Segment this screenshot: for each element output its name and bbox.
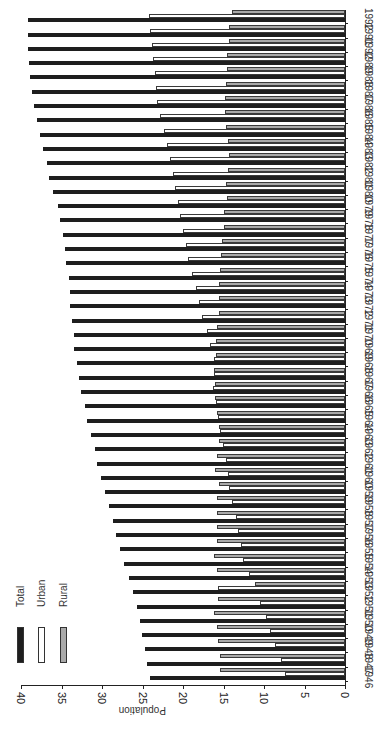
value-axis-label: Population xyxy=(119,705,166,716)
value-tick xyxy=(345,685,346,689)
bar-total xyxy=(53,190,345,194)
bar-total xyxy=(34,104,345,108)
bar-total xyxy=(70,304,345,308)
bar-total xyxy=(37,118,345,122)
bar-total xyxy=(28,33,345,37)
value-tick-label: 10 xyxy=(258,692,270,704)
value-tick xyxy=(264,685,265,689)
bar-total xyxy=(66,261,345,265)
bar-total xyxy=(63,233,345,237)
value-tick xyxy=(21,685,22,689)
legend-label-urban: Urban xyxy=(36,580,47,607)
bar-total xyxy=(109,504,345,508)
legend-label-rural: Rural xyxy=(58,583,69,607)
bar-total xyxy=(137,605,345,609)
bar-total xyxy=(145,647,345,651)
bar-total xyxy=(69,276,345,280)
bar-total xyxy=(49,176,345,180)
value-tick xyxy=(305,685,306,689)
bar-total xyxy=(70,290,345,294)
value-axis-line xyxy=(22,685,346,686)
legend-swatch-total xyxy=(17,627,24,663)
bar-total xyxy=(28,18,345,22)
bar-total xyxy=(113,519,345,523)
value-tick-label: 5 xyxy=(299,692,311,698)
bar-total xyxy=(140,619,345,623)
value-tick-label: 0 xyxy=(339,692,351,698)
bar-total xyxy=(116,533,345,537)
bar-total xyxy=(95,447,345,451)
bar-total xyxy=(147,662,345,666)
bar-total xyxy=(142,633,345,637)
value-tick xyxy=(102,685,103,689)
bar-total xyxy=(105,490,345,494)
value-tick-label: 40 xyxy=(15,692,27,704)
bar-total xyxy=(72,319,345,323)
bar-total xyxy=(101,476,345,480)
legend-swatch-urban xyxy=(38,627,45,663)
value-tick xyxy=(183,685,184,689)
value-tick-label: 25 xyxy=(137,692,149,704)
bar-total xyxy=(97,462,345,466)
value-tick-label: 15 xyxy=(218,692,230,704)
bar-total xyxy=(28,47,345,51)
bar-total xyxy=(133,590,345,594)
value-tick xyxy=(224,685,225,689)
year-label: 1992 xyxy=(363,8,374,30)
bar-total xyxy=(87,419,345,423)
bar-total xyxy=(47,161,345,165)
bar-total xyxy=(81,390,345,394)
bar-total xyxy=(58,204,345,208)
bar-total xyxy=(30,75,345,79)
bar-total xyxy=(32,90,345,94)
bar-total xyxy=(77,361,345,365)
bar-total xyxy=(150,676,345,680)
bar-total xyxy=(120,547,345,551)
bar-total xyxy=(129,576,345,580)
bar-total xyxy=(43,147,345,151)
bar-total xyxy=(29,61,345,65)
legend-label-total: Total xyxy=(15,586,26,607)
legend-swatch-rural xyxy=(60,627,67,663)
bar-total xyxy=(91,433,345,437)
category-axis-line xyxy=(345,10,346,686)
value-tick xyxy=(62,685,63,689)
bar-total xyxy=(40,133,345,137)
bar-total xyxy=(85,404,345,408)
bar-total xyxy=(124,562,345,566)
bar-total xyxy=(74,333,345,337)
value-tick xyxy=(143,685,144,689)
bar-total xyxy=(65,247,345,251)
value-tick-label: 20 xyxy=(177,692,189,704)
value-tick-label: 35 xyxy=(56,692,68,704)
bar-total xyxy=(79,376,345,380)
bar-total xyxy=(60,218,345,222)
bar-total xyxy=(74,347,345,351)
value-tick-label: 30 xyxy=(96,692,108,704)
population-bar-chart: 1946194719481949195019511952195319541955… xyxy=(0,0,392,744)
